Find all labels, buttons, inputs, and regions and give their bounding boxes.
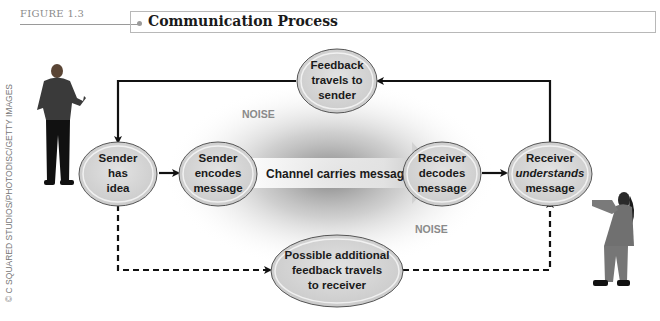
svg-text:Feedback: Feedback xyxy=(310,59,364,71)
svg-text:Sender: Sender xyxy=(99,152,139,164)
photo-credit: © C SQUARED STUDIOS/PHOTODISC/GETTY IMAG… xyxy=(4,84,14,302)
noise-label-top: NOISE xyxy=(242,108,275,120)
svg-text:decodes: decodes xyxy=(419,167,466,179)
node-sender-has-idea: Sender has idea xyxy=(79,142,157,206)
svg-text:encodes: encodes xyxy=(195,167,242,179)
svg-text:sender: sender xyxy=(318,89,356,101)
svg-text:feedback travels: feedback travels xyxy=(292,264,382,276)
svg-text:Receiver: Receiver xyxy=(526,152,574,164)
noise-label-bottom: NOISE xyxy=(415,223,448,235)
node-possible-additional-feedback: Possible additional feedback travels to … xyxy=(271,235,403,307)
svg-text:message: message xyxy=(525,182,574,194)
svg-text:to receiver: to receiver xyxy=(308,279,367,291)
svg-text:Receiver: Receiver xyxy=(418,152,466,164)
svg-text:message: message xyxy=(417,182,466,194)
svg-text:idea: idea xyxy=(106,182,130,194)
node-receiver-understands-message: Receiver understands message xyxy=(508,142,592,206)
svg-text:Sender: Sender xyxy=(199,152,239,164)
node-feedback-travels-to-sender: Feedback travels to sender xyxy=(297,49,377,113)
communication-diagram: Channel carries message Sender has idea … xyxy=(0,0,660,321)
svg-text:travels to: travels to xyxy=(311,74,362,86)
woman-figure-icon xyxy=(592,192,634,286)
man-figure-icon xyxy=(37,64,86,185)
channel-label: Channel carries message xyxy=(266,167,411,181)
node-sender-encodes-message: Sender encodes message xyxy=(179,142,257,206)
node-receiver-decodes-message: Receiver decodes message xyxy=(403,142,481,206)
svg-text:Possible additional: Possible additional xyxy=(285,249,390,261)
svg-text:message: message xyxy=(193,182,242,194)
svg-text:understands: understands xyxy=(515,167,584,179)
svg-text:has: has xyxy=(108,167,128,179)
